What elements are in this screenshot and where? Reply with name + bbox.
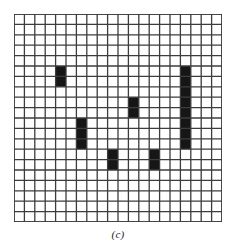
figure-container: (c)	[0, 0, 236, 251]
grid-diagram	[14, 14, 222, 222]
grid-lines-layer	[14, 14, 222, 222]
figure-caption: (c)	[0, 228, 236, 240]
filled-cell-block-d	[76, 118, 86, 149]
grid-svg	[14, 14, 222, 222]
